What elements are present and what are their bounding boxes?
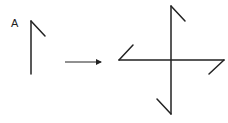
result-flag-left [119,45,133,60]
result-flag-right [209,60,224,74]
source-shape [31,21,45,74]
source-flag [31,21,45,36]
diagram-canvas: A [0,0,228,123]
shape-label: A [11,17,19,29]
result-flag-top [171,6,185,21]
result-shape [119,6,224,114]
result-flag-bottom [157,99,171,114]
